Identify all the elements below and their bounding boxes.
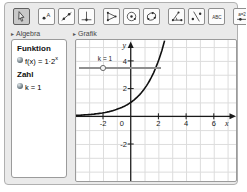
angle-icon xyxy=(170,10,183,23)
angle-tool-button[interactable] xyxy=(168,8,185,25)
slider-value-label: k = 1 xyxy=(98,55,113,62)
line-tool-button[interactable] xyxy=(58,8,75,25)
polygon-tool-button[interactable] xyxy=(103,8,120,25)
slider-icon: a=2 xyxy=(235,10,247,23)
polygon-icon xyxy=(105,10,118,23)
toolbar-group-move xyxy=(13,8,33,25)
toolbar-group-measure-transform-text: ABC xyxy=(168,8,228,25)
circle-center-icon xyxy=(125,10,138,23)
reflect-icon xyxy=(190,10,203,23)
algebra-view-header[interactable]: ▸Algebra xyxy=(11,29,40,38)
cursor-arrow-icon xyxy=(15,10,28,23)
visibility-marble-icon[interactable] xyxy=(17,57,23,63)
svg-text:ABC: ABC xyxy=(212,15,222,20)
x-tick-label: 0 xyxy=(120,119,124,128)
x-tick-label: 6 xyxy=(212,119,216,128)
algebra-item-number: k = 1 xyxy=(17,81,66,92)
visibility-marble-icon[interactable] xyxy=(17,83,23,89)
grafik-view-header[interactable]: ▸Grafik xyxy=(73,29,97,38)
slider-handle[interactable] xyxy=(100,65,105,70)
slider-tool-button[interactable]: a=2 xyxy=(233,8,246,25)
algebra-group-title-funktion: Funktion xyxy=(17,44,66,53)
toolbar: A xyxy=(13,8,246,25)
move-tool-button[interactable] xyxy=(13,8,30,25)
svg-text:A: A xyxy=(47,12,51,18)
x-axis-label: x xyxy=(224,119,229,128)
y-axis-arrow-icon xyxy=(128,42,134,49)
grafik-panel[interactable]: -2 0 2 4 6 x 4 2 -2 y k = 1 xyxy=(75,39,237,182)
app-window: A xyxy=(4,2,238,185)
disclosure-triangle-icon: ▸ xyxy=(73,31,76,37)
x-tick-label: -2 xyxy=(100,119,107,128)
algebra-header-label: Algebra xyxy=(16,30,40,37)
svg-text:a=2: a=2 xyxy=(238,12,246,17)
point-tool-button[interactable]: A xyxy=(38,8,55,25)
toolbar-group-points-lines: A xyxy=(38,8,98,25)
circle-with-center-tool-button[interactable] xyxy=(123,8,140,25)
algebra-group-title-zahl: Zahl xyxy=(17,70,66,79)
y-axis-label: y xyxy=(121,41,126,50)
y-tick-label: -2 xyxy=(120,140,127,149)
grid-canvas[interactable]: -2 0 2 4 6 x 4 2 -2 y k = 1 xyxy=(76,40,236,181)
perpendicular-line-icon xyxy=(80,10,93,23)
perpendicular-line-tool-button[interactable] xyxy=(78,8,95,25)
algebra-item-function: f(x) = 1·2x xyxy=(17,55,66,66)
y-tick-label: 2 xyxy=(123,84,127,93)
line-icon xyxy=(60,10,73,23)
point-icon: A xyxy=(40,10,53,23)
disclosure-triangle-icon: ▸ xyxy=(11,31,14,37)
circle-through-points-tool-button[interactable] xyxy=(143,8,160,25)
function-definition: f(x) = 1·2x xyxy=(25,55,58,66)
algebra-panel: Funktion f(x) = 1·2x Zahl k = 1 xyxy=(11,39,67,178)
grafik-header-label: Grafik xyxy=(78,30,97,37)
function-curve[interactable] xyxy=(76,41,165,116)
y-tick-label: 4 xyxy=(123,57,127,66)
number-definition: k = 1 xyxy=(25,81,41,92)
circle-points-icon xyxy=(145,10,158,23)
graphics-overlay: -2 0 2 4 6 x 4 2 -2 y k = 1 xyxy=(76,40,236,181)
screenshot: A xyxy=(0,0,246,192)
text-abc-icon: ABC xyxy=(210,10,224,23)
x-tick-label: 4 xyxy=(184,119,188,128)
x-tick-label: 2 xyxy=(156,119,160,128)
x-axis-arrow-icon xyxy=(230,113,237,119)
toolbar-group-slider: a=2 xyxy=(233,8,246,25)
toolbar-group-shapes xyxy=(103,8,163,25)
reflect-tool-button[interactable] xyxy=(188,8,205,25)
text-tool-button[interactable]: ABC xyxy=(208,8,225,25)
